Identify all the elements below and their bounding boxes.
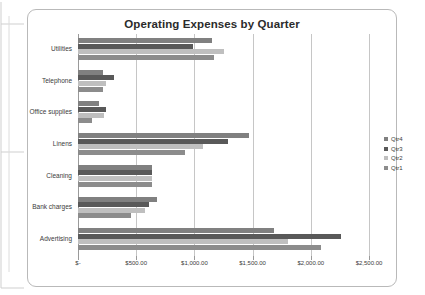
bar-qtr4 bbox=[78, 70, 103, 75]
x-axis-tick-label: $- bbox=[75, 260, 80, 266]
bar-group: Cleaning bbox=[78, 161, 369, 193]
legend-swatch-icon bbox=[384, 137, 388, 141]
category-label: Office supplies bbox=[29, 109, 72, 116]
bar-qtr1 bbox=[78, 87, 103, 92]
x-axis-tick-label: $2,000.00 bbox=[297, 260, 324, 266]
bar-group: Office supplies bbox=[78, 97, 369, 129]
bar-qtr4 bbox=[78, 101, 99, 106]
bar-group: Advertising bbox=[78, 224, 369, 256]
legend-swatch-icon bbox=[384, 156, 388, 160]
x-axis-tick-label: $2,500.00 bbox=[356, 260, 383, 266]
bar-qtr3 bbox=[78, 170, 152, 175]
legend-label: Qtr1 bbox=[391, 165, 403, 171]
bar-qtr2 bbox=[78, 176, 152, 181]
legend-label: Qtr4 bbox=[391, 136, 403, 142]
plot-area: $-$500.00$1,000.00$1,500.00$2,000.00$2,5… bbox=[78, 34, 369, 256]
bar-qtr1 bbox=[78, 245, 321, 250]
legend-item-qtr4[interactable]: Qtr4 bbox=[384, 136, 403, 142]
bar-group: Utilities bbox=[78, 34, 369, 66]
bar-qtr3 bbox=[78, 75, 114, 80]
bar-qtr1 bbox=[78, 55, 214, 60]
x-axis-tick-label: $1,500.00 bbox=[239, 260, 266, 266]
legend-swatch-icon bbox=[384, 147, 388, 151]
legend-item-qtr3[interactable]: Qtr3 bbox=[384, 146, 403, 152]
bar-qtr3 bbox=[78, 202, 149, 207]
bar-qtr3 bbox=[78, 234, 341, 239]
legend-swatch-icon bbox=[384, 166, 388, 170]
bar-qtr2 bbox=[78, 208, 145, 213]
legend-item-qtr2[interactable]: Qtr2 bbox=[384, 155, 403, 161]
bar-qtr1 bbox=[78, 118, 92, 123]
bar-qtr3 bbox=[78, 44, 193, 49]
category-label: Cleaning bbox=[46, 173, 72, 180]
bar-qtr1 bbox=[78, 150, 185, 155]
bar-qtr4 bbox=[78, 133, 249, 138]
bar-qtr4 bbox=[78, 165, 152, 170]
bar-qtr2 bbox=[78, 113, 104, 118]
category-label: Utilities bbox=[51, 46, 72, 53]
category-label: Linens bbox=[53, 141, 72, 148]
bar-qtr1 bbox=[78, 182, 152, 187]
bar-qtr1 bbox=[78, 213, 131, 218]
chart-title: Operating Expenses by Quarter bbox=[28, 18, 396, 30]
category-label: Advertising bbox=[40, 236, 72, 243]
legend-label: Qtr3 bbox=[391, 146, 403, 152]
bar-qtr4 bbox=[78, 38, 212, 43]
bar-qtr4 bbox=[78, 197, 157, 202]
bar-qtr3 bbox=[78, 107, 106, 112]
category-label: Bank charges bbox=[32, 204, 72, 211]
bar-qtr2 bbox=[78, 81, 106, 86]
category-label: Telephone bbox=[42, 78, 72, 85]
x-axis-tick-label: $500.00 bbox=[125, 260, 147, 266]
x-axis-tick-label: $1,000.00 bbox=[181, 260, 208, 266]
bar-group: Linens bbox=[78, 129, 369, 161]
legend-label: Qtr2 bbox=[391, 155, 403, 161]
chart-legend: Qtr4Qtr3Qtr2Qtr1 bbox=[384, 136, 403, 171]
bar-qtr3 bbox=[78, 139, 228, 144]
bar-qtr2 bbox=[78, 239, 288, 244]
bar-group: Bank charges bbox=[78, 193, 369, 225]
bar-group: Telephone bbox=[78, 66, 369, 98]
gridline bbox=[369, 34, 370, 256]
legend-item-qtr1[interactable]: Qtr1 bbox=[384, 165, 403, 171]
bar-qtr2 bbox=[78, 144, 203, 149]
bar-qtr4 bbox=[78, 228, 274, 233]
bar-qtr2 bbox=[78, 49, 224, 54]
